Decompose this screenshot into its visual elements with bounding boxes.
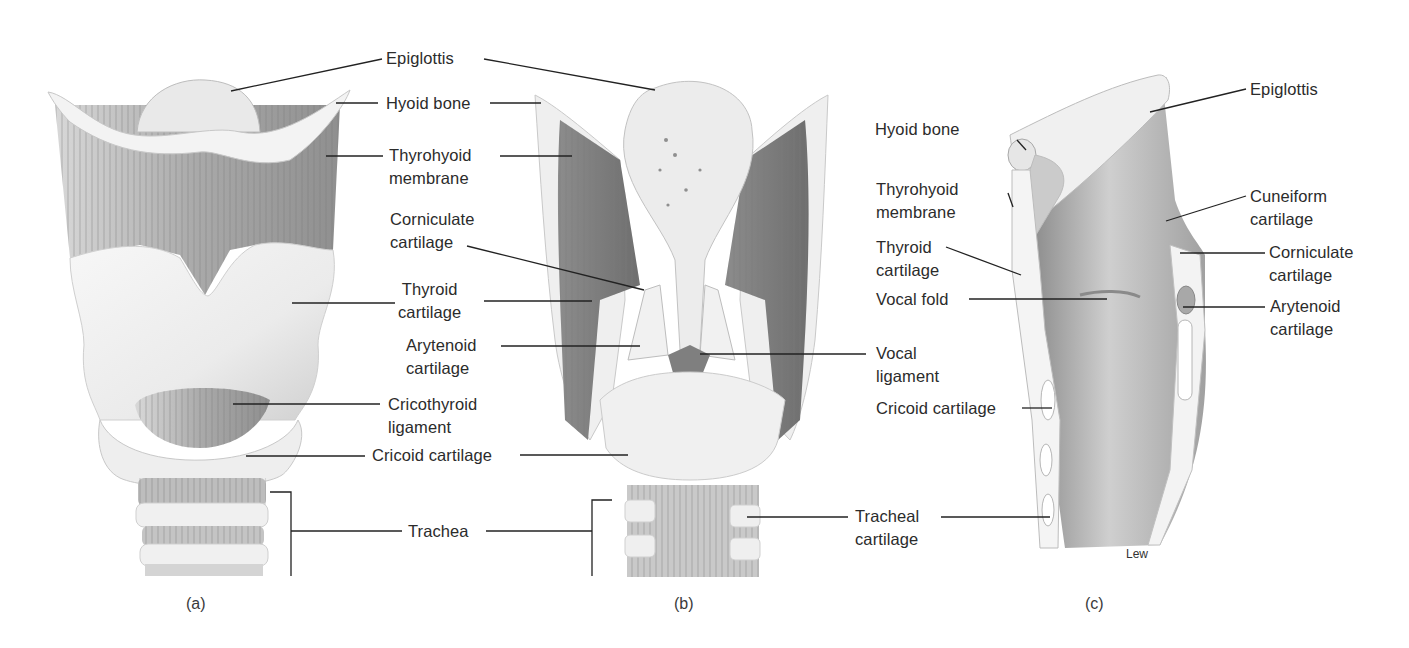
- larynx-illustration: [0, 0, 1409, 648]
- caption-a: (a): [186, 595, 206, 613]
- label-tracheal-cartilage: Tracheal cartilage: [855, 505, 919, 551]
- label-c-hyoid-bone: Hyoid bone: [875, 118, 959, 140]
- label-cricoid-cartilage: Cricoid cartilage: [372, 444, 492, 466]
- panel-b-drawing: [535, 81, 828, 577]
- panel-a-drawing: [48, 80, 350, 576]
- caption-b: (b): [674, 595, 694, 613]
- label-thyroid-cartilage: Thyroid cartilage: [398, 278, 461, 324]
- label-thyrohyoid-membrane: Thyrohyoid membrane: [389, 144, 472, 190]
- panel-c-drawing: [1008, 75, 1206, 548]
- label-epiglottis: Epiglottis: [386, 47, 454, 69]
- artist-signature: Lew: [1126, 547, 1148, 561]
- label-c-epiglottis: Epiglottis: [1250, 78, 1318, 100]
- label-hyoid-bone: Hyoid bone: [386, 92, 470, 114]
- label-c-corniculate-cartilage: Corniculate cartilage: [1269, 241, 1354, 287]
- label-c-cricoid-cartilage: Cricoid cartilage: [876, 397, 996, 419]
- larynx-figure: Epiglottis Hyoid bone Thyrohyoid membran…: [0, 0, 1409, 648]
- label-c-arytenoid-cartilage: Arytenoid cartilage: [1270, 295, 1341, 341]
- label-corniculate-cartilage: Corniculate cartilage: [390, 208, 475, 254]
- label-c-cuneiform-cartilage: Cuneiform cartilage: [1250, 185, 1327, 231]
- label-c-thyrohyoid-membrane: Thyrohyoid membrane: [876, 178, 959, 224]
- label-trachea: Trachea: [408, 520, 469, 542]
- label-c-vocal-fold: Vocal fold: [876, 288, 949, 310]
- label-cricothyroid-ligament: Cricothyroid ligament: [388, 393, 477, 439]
- label-arytenoid-cartilage: Arytenoid cartilage: [406, 334, 477, 380]
- label-c-thyroid-cartilage: Thyroid cartilage: [876, 236, 939, 282]
- caption-c: (c): [1085, 595, 1104, 613]
- label-vocal-ligament: Vocal ligament: [876, 342, 939, 388]
